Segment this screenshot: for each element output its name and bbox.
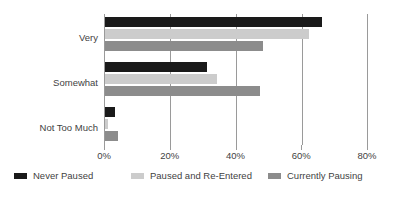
legend-label: Paused and Re-Entered [150,170,252,181]
legend-item-currently-pausing[interactable]: Currently Pausing [268,170,363,181]
bar-row [105,29,368,39]
bar-row [105,62,368,72]
legend-item-never-paused[interactable]: Never Paused [14,170,93,181]
bar-somewhat-currently-pausing [105,86,260,96]
x-tick-label-20: 20% [150,150,190,161]
category-label-not-too-much: Not Too Much [2,122,98,133]
bar-row [105,74,368,84]
bar-row [105,86,368,96]
legend-label: Currently Pausing [287,170,363,181]
legend-swatch-icon [268,173,281,179]
bar-somewhat-never-paused [105,62,207,72]
bar-row [105,17,368,27]
bar-not-too-much-never-paused [105,107,115,117]
grouped-bar-chart: Very Somewhat Not Too Much [0,0,403,198]
bar-row [105,119,368,129]
legend-swatch-icon [131,173,144,179]
x-tick-label-0: 0% [84,150,124,161]
bar-row [105,131,368,141]
bar-row [105,41,368,51]
chart-legend: Never Paused Paused and Re-Entered Curre… [0,170,403,190]
bar-group-very [105,17,368,53]
bar-group-not-too-much [105,107,368,143]
plot-area [104,14,368,145]
bar-very-paused-and-re-entered [105,29,309,39]
category-label-somewhat: Somewhat [2,77,98,88]
legend-swatch-icon [14,173,27,179]
bar-somewhat-paused-and-re-entered [105,74,217,84]
x-tick-label-40: 40% [216,150,256,161]
category-label-very: Very [2,32,98,43]
bar-group-somewhat [105,62,368,98]
bar-not-too-much-currently-pausing [105,131,118,141]
category-axis: Very Somewhat Not Too Much [0,0,98,145]
bar-very-currently-pausing [105,41,263,51]
legend-label: Never Paused [33,170,93,181]
bar-very-never-paused [105,17,322,27]
bar-not-too-much-paused-and-re-entered [105,119,108,129]
bar-row [105,107,368,117]
legend-item-paused-and-re-entered[interactable]: Paused and Re-Entered [131,170,252,181]
x-tick-label-60: 60% [281,150,321,161]
x-tick-label-80: 80% [347,150,387,161]
